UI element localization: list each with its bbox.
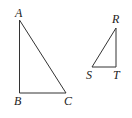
vertex-label-r: R [111, 12, 120, 26]
vertex-label-b: B [14, 94, 22, 108]
triangle-rst-shape [92, 28, 116, 67]
triangles-diagram: A B C R S T [0, 0, 132, 118]
triangle-abc: A B C [14, 6, 73, 108]
vertex-label-a: A [14, 6, 23, 20]
triangle-abc-shape [20, 20, 67, 93]
triangle-rst: R S T [86, 12, 121, 82]
vertex-label-s: S [86, 68, 92, 82]
vertex-label-c: C [64, 94, 73, 108]
vertex-label-t: T [113, 68, 121, 82]
